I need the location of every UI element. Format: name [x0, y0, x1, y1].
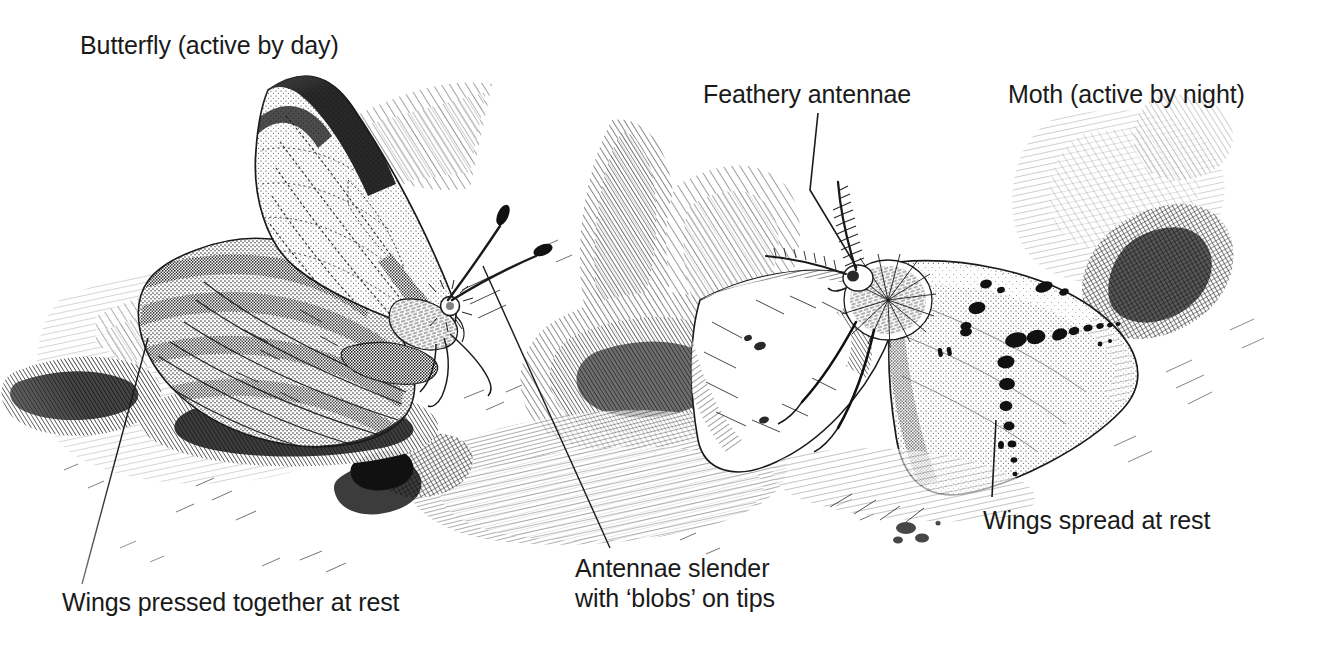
label-antennae-slender: Antennae slender with ‘blobs’ on tips [575, 553, 775, 613]
label-feathery-antennae: Feathery antennae [703, 79, 911, 109]
label-wings-pressed-together: Wings pressed together at rest [62, 587, 399, 617]
label-butterfly: Butterfly (active by day) [80, 30, 339, 60]
illustration-figure: Butterfly (active by day) Feathery anten… [0, 0, 1336, 657]
label-moth: Moth (active by night) [1008, 79, 1245, 109]
label-wings-spread-at-rest: Wings spread at rest [983, 505, 1210, 535]
